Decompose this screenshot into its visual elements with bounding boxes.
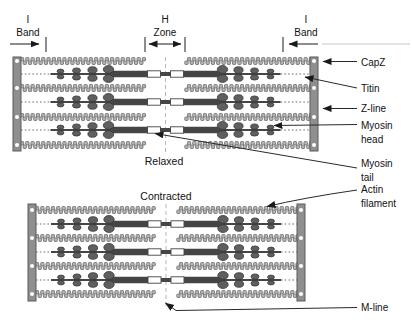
myosin-head-blob xyxy=(88,67,97,74)
myosin-head-blob xyxy=(88,217,97,224)
myosin-head-blob xyxy=(234,245,243,252)
i-band-left-annotation: I Band xyxy=(10,14,46,52)
myosin-head-blob xyxy=(234,95,243,102)
capz-cap-dot xyxy=(30,208,34,212)
myosin-head-blob xyxy=(103,131,113,139)
myosin-head-blob xyxy=(104,244,114,252)
z-line-bar xyxy=(297,204,305,301)
sarcomere-diagram-svg: I Band H Zone I Band Relaxed Contracted … xyxy=(0,0,412,328)
myosin-head-blob xyxy=(218,272,228,280)
myosin-head-blob xyxy=(88,75,97,82)
m-line-label: M-line xyxy=(361,302,389,313)
myosin-head-blob xyxy=(234,123,243,130)
actin-filament xyxy=(37,264,298,267)
myosin-head-blob xyxy=(267,69,274,73)
actin-filament xyxy=(37,208,298,211)
actin-filament-label-line1: Actin xyxy=(361,184,383,195)
capz-label: CapZ xyxy=(361,57,385,68)
myosin-head-blob xyxy=(268,247,275,251)
capz-cap-dot xyxy=(312,115,316,119)
myosin-head-pointer-line xyxy=(274,125,357,126)
myosin-head-blob xyxy=(104,281,114,289)
capz-cap-dot xyxy=(30,292,34,296)
contracted-sarcomere xyxy=(28,204,305,308)
myosin-head-blob xyxy=(251,96,259,101)
myosin-tail-label-line2: tail xyxy=(361,172,374,183)
myosin-head-blob xyxy=(58,247,65,251)
capz-cap-dot xyxy=(299,208,303,212)
myosin-head-label-line1: Myosin xyxy=(361,120,393,131)
myosin-head-blob xyxy=(88,95,97,102)
myosin-head-blob xyxy=(218,253,228,261)
myosin-head-blob xyxy=(234,103,243,110)
h-zone-label-line2: Zone xyxy=(154,27,177,38)
myosin-head-blob xyxy=(268,219,275,223)
myosin-head-blob xyxy=(217,122,227,130)
myosin-head-blob xyxy=(251,253,259,258)
capz-cap-dot xyxy=(312,143,316,147)
capz-cap-dot xyxy=(30,264,34,268)
relaxed-caption: Relaxed xyxy=(145,155,184,167)
myosin-head-blob xyxy=(234,75,243,82)
myosin-head-blob xyxy=(88,273,97,280)
myosin-head-blob xyxy=(57,131,64,135)
actin-filament xyxy=(37,236,298,239)
i-band-right-label-line1: I xyxy=(305,14,308,25)
myosin-head-blob xyxy=(251,124,259,129)
myosin-head-blob xyxy=(103,75,113,83)
myosin-head-blob xyxy=(88,123,97,130)
myosin-head-blob xyxy=(57,125,64,129)
myosin-head-blob xyxy=(58,225,65,229)
capz-cap-dot xyxy=(299,264,303,268)
myosin-head-blob xyxy=(251,246,259,251)
myosin-head-blob xyxy=(73,124,81,129)
contracted-caption: Contracted xyxy=(140,190,192,202)
myosin-head-blob xyxy=(217,75,227,83)
actin-filament xyxy=(37,292,298,295)
myosin-head-blob xyxy=(103,94,113,102)
h-zone-label-line1: H xyxy=(161,14,168,25)
myosin-head-blob xyxy=(73,68,81,73)
myosin-head-blob xyxy=(104,225,114,233)
actin-filament xyxy=(22,59,311,62)
capz-cap-dot xyxy=(15,59,19,63)
relaxed-sarcomere xyxy=(13,57,318,152)
myosin-head-blob xyxy=(234,225,243,232)
myosin-head-blob xyxy=(73,246,81,251)
myosin-head-blob xyxy=(234,253,243,260)
myosin-head-blob xyxy=(251,75,259,80)
capz-cap-dot xyxy=(15,143,19,147)
myosin-head-label-line2: head xyxy=(361,134,383,145)
capz-cap-dot xyxy=(299,292,303,296)
capz-cap-dot xyxy=(15,115,19,119)
myosin-head-blob xyxy=(88,103,97,110)
myosin-head-blob xyxy=(251,131,259,136)
myosin-head-blob xyxy=(58,281,65,285)
myosin-head-blob xyxy=(217,66,227,74)
myosin-head-blob xyxy=(251,68,259,73)
capz-cap-dot xyxy=(299,236,303,240)
z-line-label: Z-line xyxy=(361,103,386,114)
capz-cap-dot xyxy=(312,59,316,63)
actin-filament-label-line2: filament xyxy=(361,198,396,209)
capz-cap-dot xyxy=(312,86,316,90)
actin-filament-pointer-line xyxy=(267,190,357,207)
myosin-head-blob xyxy=(57,69,64,73)
myosin-head-blob xyxy=(217,94,227,102)
myosin-head-blob xyxy=(268,275,275,279)
myosin-head-blob xyxy=(268,253,275,257)
myosin-head-blob xyxy=(73,131,81,136)
i-band-left-label-line2: Band xyxy=(16,27,39,38)
myosin-head-blob xyxy=(267,103,274,107)
myosin-head-blob xyxy=(88,245,97,252)
z-line-bar xyxy=(310,57,318,151)
m-line-pointer-line xyxy=(166,303,358,311)
myosin-head-blob xyxy=(73,274,81,279)
myosin-head-blob xyxy=(217,103,227,111)
sarcomere-figure: I Band H Zone I Band Relaxed Contracted … xyxy=(0,0,412,328)
myosin-head-blob xyxy=(218,225,228,233)
myosin-head-blob xyxy=(251,281,259,286)
myosin-head-blob xyxy=(57,103,64,107)
myosin-head-blob xyxy=(268,281,275,285)
myosin-head-blob xyxy=(88,281,97,288)
